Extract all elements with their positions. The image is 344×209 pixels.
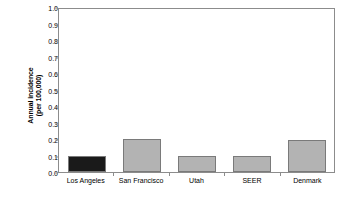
bar-los-angeles bbox=[68, 156, 106, 173]
x-axis-tick-mark bbox=[113, 173, 114, 176]
x-axis-tick-mark bbox=[224, 173, 225, 176]
bar-chart-figure: Annual incidence (per 100,000) 0.00.10.2… bbox=[0, 0, 344, 209]
bar-slot bbox=[169, 9, 224, 172]
x-axis-tick-label: San Francisco bbox=[113, 177, 168, 184]
bar-san-francisco bbox=[123, 139, 161, 172]
bar-utah bbox=[178, 156, 216, 173]
bars-container bbox=[59, 9, 334, 172]
bar-seer bbox=[233, 156, 271, 173]
bar-denmark bbox=[288, 140, 326, 172]
bar-slot bbox=[279, 9, 334, 172]
bar-slot bbox=[59, 9, 114, 172]
x-axis-tick-mark bbox=[280, 173, 281, 176]
x-axis-tick-mark bbox=[169, 173, 170, 176]
x-axis-tick-label: Utah bbox=[169, 177, 224, 184]
x-axis-tick-label: SEER bbox=[224, 177, 279, 184]
bar-slot bbox=[114, 9, 169, 172]
x-axis-tick-label: Denmark bbox=[280, 177, 335, 184]
x-axis-tick-labels: Los AngelesSan FranciscoUtahSEERDenmark bbox=[58, 177, 335, 191]
bar-slot bbox=[224, 9, 279, 172]
x-axis-tick-label: Los Angeles bbox=[58, 177, 113, 184]
plot-area bbox=[58, 8, 335, 173]
y-axis-title-line-1: Annual incidence bbox=[27, 67, 35, 123]
